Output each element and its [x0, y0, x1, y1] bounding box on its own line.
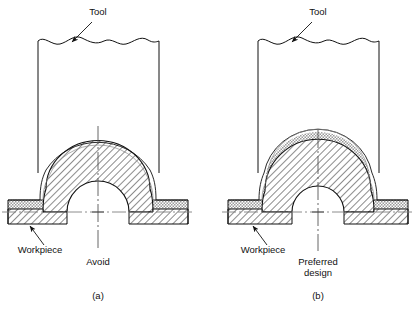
workpiece-leader-arrow-a: [30, 226, 44, 245]
tool-label-b: Tool: [309, 6, 326, 17]
workpiece-label-b: Workpiece: [241, 244, 286, 255]
workpiece-label-a: Workpiece: [18, 244, 63, 255]
tool-label-a: Tool: [89, 6, 106, 17]
panel-b: Tool Workpiece Preferred design (b): [222, 6, 414, 301]
workpiece-leader-arrow-b: [253, 226, 267, 245]
verdict-label-b-line2: design: [304, 267, 332, 278]
verdict-label-a: Avoid: [86, 256, 110, 267]
panel-caption-a: (a): [92, 290, 104, 301]
diagram-canvas: Tool Workpiece Avoid (a): [0, 0, 418, 315]
figure-root: Tool Workpiece Avoid (a): [0, 0, 418, 315]
verdict-label-b-line1: Preferred: [298, 256, 338, 267]
panel-caption-b: (b): [312, 290, 324, 301]
panel-a: Tool Workpiece Avoid (a): [2, 6, 194, 301]
